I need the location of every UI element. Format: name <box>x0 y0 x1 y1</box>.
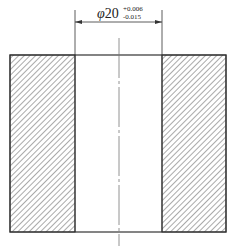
arrowhead-left <box>75 20 82 24</box>
upper-tolerance: +0.006 <box>123 5 143 13</box>
dimension-label: φ20 <box>97 6 119 21</box>
lower-tolerance: -0.015 <box>123 13 142 21</box>
section-hatch-right <box>162 55 226 232</box>
section-hatch-left <box>10 55 75 232</box>
nominal-value: 20 <box>105 6 119 21</box>
arrowhead-right <box>155 20 162 24</box>
technical-drawing: φ20 +0.006 -0.015 <box>0 0 231 250</box>
